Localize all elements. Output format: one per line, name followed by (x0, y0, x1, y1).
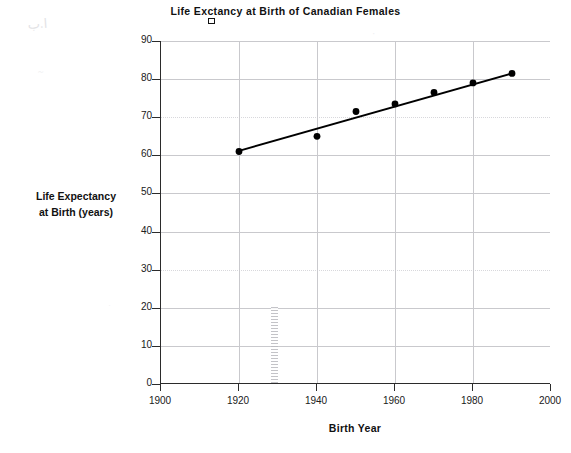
y-axis-tick (152, 232, 160, 233)
y-axis-tick-label: 50 (124, 186, 152, 197)
y-axis-tick (152, 308, 160, 309)
x-axis-tick (238, 384, 239, 391)
data-layer (161, 41, 551, 384)
y-axis-tick-label: 20 (124, 301, 152, 312)
x-axis-tick (394, 384, 395, 391)
x-axis-tick-label: 1920 (213, 395, 263, 406)
chart-title-part1: Life Ex (170, 5, 207, 17)
y-axis-tick-label: 90 (124, 34, 152, 45)
data-point (353, 108, 360, 115)
x-axis-title: Birth Year (160, 422, 550, 434)
data-point (314, 133, 321, 140)
scan-smudge-top-left: ا.ب (27, 15, 47, 32)
y-axis-tick-label: 70 (124, 110, 152, 121)
x-axis-tick (472, 384, 473, 391)
x-axis-tick-label: 1900 (135, 395, 185, 406)
y-axis-tick-label: 30 (124, 263, 152, 274)
y-axis-tick (152, 384, 160, 385)
x-axis-tick-label: 1960 (369, 395, 419, 406)
y-axis-tick (152, 193, 160, 194)
y-axis-tick-labels: 0102030405060708090 (118, 41, 152, 384)
y-axis-tick-label: 0 (124, 377, 152, 388)
y-axis-tick-label: 60 (124, 148, 152, 159)
data-point (431, 89, 438, 96)
data-point (392, 100, 399, 107)
x-axis-tick (160, 384, 161, 391)
scan-smudge-left: ~ (38, 66, 45, 77)
x-axis-tick-label: 1940 (291, 395, 341, 406)
scan-smudge-top-right: · (372, 28, 377, 39)
y-axis-tick (152, 117, 160, 118)
plot-area (160, 41, 550, 384)
x-axis-tick-labels: 190019201940196019802000 (0, 395, 571, 411)
y-axis-tick-label: 10 (124, 339, 152, 350)
chart-title: Life Exctancy at Birth of Canadian Femal… (0, 5, 571, 17)
data-point (236, 148, 243, 155)
data-point (470, 80, 477, 87)
y-axis-tick (152, 41, 160, 42)
y-axis-tick (152, 155, 160, 156)
y-axis-tick (152, 79, 160, 80)
x-axis-tick (550, 384, 551, 391)
chart-title-part2: ctancy at Birth of Canadian Females (207, 5, 400, 17)
y-axis-tick (152, 270, 160, 271)
x-axis-tick (316, 384, 317, 391)
scan-smudge-mid-left: · (108, 300, 113, 310)
y-axis-tick-label: 80 (124, 72, 152, 83)
x-axis-tick-label: 1980 (447, 395, 497, 406)
y-axis-tick (152, 346, 160, 347)
data-point (509, 70, 516, 77)
x-axis-tick-label: 2000 (525, 395, 571, 406)
y-axis-tick-label: 40 (124, 225, 152, 236)
